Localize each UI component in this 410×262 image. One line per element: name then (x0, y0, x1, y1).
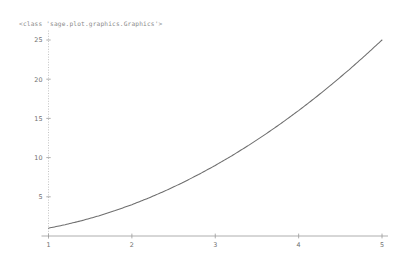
screenshot-root: <class 'sage.plot.graphics.Graphics'> 51… (0, 0, 410, 262)
plot-canvas: 510152025 12345 (0, 0, 410, 262)
y-tick-label: 20 (34, 76, 42, 84)
curve-path (49, 40, 383, 228)
x-tick-label: 3 (213, 241, 217, 249)
x-tick-labels: 12345 (46, 241, 384, 249)
x-tick-label: 4 (297, 241, 301, 249)
x-tick-label: 1 (46, 241, 50, 249)
plot-figure: 510152025 12345 (0, 0, 410, 262)
y-tick-label: 5 (38, 193, 42, 201)
y-tick-label: 10 (34, 154, 42, 162)
x-tick-label: 5 (380, 241, 384, 249)
x-tick-label: 2 (130, 241, 134, 249)
data-curve (49, 40, 383, 228)
y-tick-label: 15 (34, 115, 42, 123)
y-tick-labels: 510152025 (34, 36, 42, 201)
y-axis (46, 31, 50, 239)
y-tick-label: 25 (34, 36, 42, 44)
x-axis (42, 234, 389, 239)
